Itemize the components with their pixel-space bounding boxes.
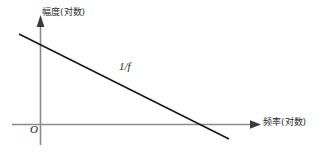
y-axis-label: 幅度(对数) bbox=[42, 8, 85, 17]
one-over-f-line bbox=[19, 34, 229, 139]
arrow-right-icon bbox=[250, 120, 261, 129]
figure-container: 幅度(对数) 频率(对数) 1/f O bbox=[0, 0, 319, 156]
x-axis-label: 频率(对数) bbox=[263, 118, 306, 127]
plot-area bbox=[0, 0, 319, 156]
curve-annotation-label: 1/f bbox=[119, 61, 131, 72]
origin-label: O bbox=[30, 124, 38, 135]
